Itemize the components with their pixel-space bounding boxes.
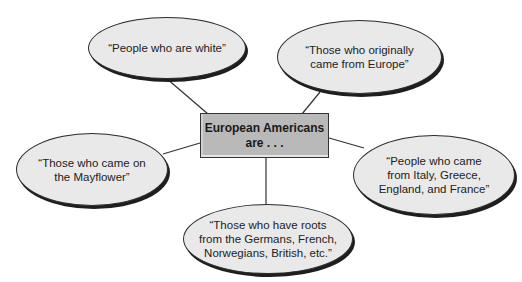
bubble-right: “People who came from Italy, Greece, Eng… xyxy=(353,135,515,215)
center-box: European Americans are . . . xyxy=(200,113,329,158)
connector-top-right xyxy=(302,92,320,114)
connector-right xyxy=(329,138,364,148)
bubble-bottom: “Those who have roots from the Germans, … xyxy=(183,204,353,274)
connector-left xyxy=(163,143,200,154)
bubble-left: “Those who came on the Mayflower” xyxy=(16,133,168,206)
bubble-top-right-text: “Those who originally came from Europe” xyxy=(305,43,414,71)
bubble-top-left-text: “People who are white” xyxy=(108,41,226,55)
bubble-left-text: “Those who came on the Mayflower” xyxy=(38,156,145,184)
bubble-bottom-text: “Those who have roots from the Germans, … xyxy=(199,218,337,260)
bubble-top-right: “Those who originally came from Europe” xyxy=(277,20,442,94)
bubble-top-left: “People who are white” xyxy=(88,17,246,79)
bubble-right-text: “People who came from Italy, Greece, Eng… xyxy=(379,154,490,196)
center-box-text: European Americans are . . . xyxy=(205,121,325,151)
